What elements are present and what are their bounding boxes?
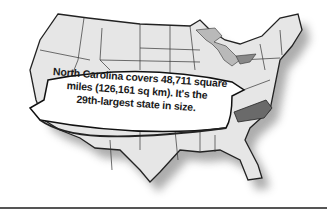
map-illustration: North Carolina covers 48,711 square mile… [0,0,327,211]
bottom-divider [0,207,327,209]
